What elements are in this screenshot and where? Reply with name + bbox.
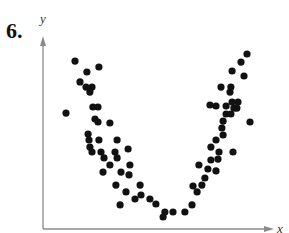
data-point (117, 201, 124, 208)
data-point (207, 144, 214, 151)
data-point (189, 182, 196, 189)
data-point (106, 119, 113, 126)
data-point (212, 167, 219, 174)
data-point (206, 101, 213, 108)
data-point (62, 110, 69, 117)
y-axis-arrow-icon (40, 36, 46, 46)
data-point (195, 161, 202, 168)
data-point (146, 195, 153, 202)
data-point (214, 156, 221, 163)
data-point (106, 161, 113, 168)
data-point (99, 169, 106, 176)
data-point (117, 169, 124, 176)
data-point (95, 136, 102, 143)
data-point (207, 156, 214, 163)
data-point (223, 102, 230, 109)
data-point (233, 105, 240, 112)
data-point (188, 201, 195, 208)
scatter-plot (0, 0, 289, 233)
data-point (131, 195, 138, 202)
data-point (160, 213, 167, 220)
data-point (112, 182, 119, 189)
data-point (122, 188, 129, 195)
data-point (201, 174, 208, 181)
data-point (137, 191, 144, 198)
data-point (194, 188, 201, 195)
data-point (88, 148, 95, 155)
data-point (234, 98, 241, 105)
data-point (181, 208, 188, 215)
data-point (152, 200, 159, 207)
data-point (95, 63, 102, 70)
data-point (198, 182, 205, 189)
data-point (229, 148, 236, 155)
data-point (246, 118, 253, 125)
data-point (76, 78, 83, 85)
data-points (62, 50, 253, 220)
data-point (71, 58, 78, 65)
data-point (240, 72, 247, 79)
data-point (86, 89, 93, 96)
data-point (220, 131, 227, 138)
data-point (212, 136, 219, 143)
data-point (100, 154, 107, 161)
data-point (227, 84, 234, 91)
data-point (212, 102, 219, 109)
data-point (243, 50, 250, 57)
x-axis-arrow-icon (264, 226, 274, 232)
data-point (204, 165, 211, 172)
data-point (126, 161, 133, 168)
data-point (94, 103, 101, 110)
data-point (114, 154, 121, 161)
data-point (137, 182, 144, 189)
data-point (220, 118, 227, 125)
data-point (217, 84, 224, 91)
data-point (83, 68, 90, 75)
data-point (229, 67, 236, 74)
data-point (218, 124, 225, 131)
data-point (215, 148, 222, 155)
data-point (125, 171, 132, 178)
data-point (237, 59, 244, 66)
data-point (85, 136, 92, 143)
data-point (114, 136, 121, 143)
data-point (94, 118, 101, 125)
data-point (125, 145, 132, 152)
data-point (169, 208, 176, 215)
